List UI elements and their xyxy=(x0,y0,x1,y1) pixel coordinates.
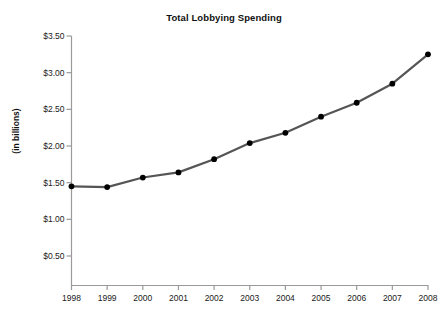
data-point-marker xyxy=(140,175,146,181)
y-tick-label: $2.50 xyxy=(19,104,65,114)
y-tick-label: $1.50 xyxy=(19,178,65,188)
x-tick-label: 2006 xyxy=(337,293,377,303)
y-tick-label: $3.00 xyxy=(19,68,65,78)
data-point-marker xyxy=(211,156,217,162)
x-tick-label: 2003 xyxy=(230,293,270,303)
data-point-marker xyxy=(104,184,110,190)
x-tick-label: 2004 xyxy=(265,293,305,303)
x-tick-label: 2001 xyxy=(158,293,198,303)
lobbying-spending-chart: Total Lobbying Spending (in billions) $3… xyxy=(0,0,448,318)
data-markers xyxy=(69,51,431,190)
y-tick-label: $1.00 xyxy=(19,214,65,224)
x-tick-label: 2007 xyxy=(372,293,412,303)
data-point-marker xyxy=(425,51,431,57)
x-tick-label: 2002 xyxy=(194,293,234,303)
y-axis-ticks xyxy=(67,36,72,256)
x-tick-label: 2005 xyxy=(301,293,341,303)
y-tick-label: $0.50 xyxy=(19,251,65,261)
y-tick-label: $2.00 xyxy=(19,141,65,151)
y-tick-label: $3.50 xyxy=(19,31,65,41)
axes xyxy=(72,36,429,286)
x-tick-label: 1999 xyxy=(87,293,127,303)
x-tick-label: 2008 xyxy=(408,293,448,303)
data-point-marker xyxy=(283,130,289,136)
data-point-marker xyxy=(247,140,253,146)
data-point-marker xyxy=(176,170,182,176)
plot-area xyxy=(0,0,448,318)
data-point-marker xyxy=(354,100,360,106)
data-point-marker xyxy=(389,81,395,87)
x-tick-label: 1998 xyxy=(52,293,92,303)
x-tick-label: 2000 xyxy=(123,293,163,303)
data-line xyxy=(72,54,429,187)
data-point-marker xyxy=(318,114,324,120)
data-point-marker xyxy=(69,183,75,189)
